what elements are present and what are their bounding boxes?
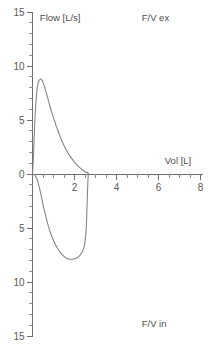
y-tick-label: 15 <box>13 331 25 342</box>
y-tick-label: 10 <box>13 277 25 288</box>
x-axis-tick-labels: 2468 <box>72 182 204 193</box>
x-axis-major-ticks <box>33 174 201 180</box>
expiratory-limb <box>33 79 89 174</box>
y-tick-label: 15 <box>13 7 25 18</box>
y-tick-label: 10 <box>13 61 25 72</box>
curve-series-group <box>33 79 89 259</box>
chart-svg: 15105051015 2468 F/V exF/V inFlow [L/s]V… <box>0 0 213 354</box>
inspiratory-panel-label: F/V in <box>142 318 167 329</box>
y-axis-tick-labels: 15105051015 <box>13 7 25 342</box>
flow-volume-loop-chart: 15105051015 2468 F/V exF/V inFlow [L/s]V… <box>0 0 213 354</box>
y-axis-title: Flow [L/s] <box>40 12 81 23</box>
x-tick-label: 6 <box>156 182 162 193</box>
chart-annotations: F/V exF/V inFlow [L/s]Vol [L] <box>40 12 191 330</box>
y-axis-group: 15105051015 <box>13 7 32 342</box>
y-axis-major-ticks <box>27 12 33 336</box>
expiratory-panel-label: F/V ex <box>142 12 170 23</box>
x-axis-group: 2468 <box>33 174 204 193</box>
inspiratory-limb <box>33 174 89 260</box>
x-tick-label: 2 <box>72 182 78 193</box>
x-tick-label: 4 <box>114 182 120 193</box>
y-tick-label: 5 <box>19 223 25 234</box>
y-tick-label: 5 <box>19 115 25 126</box>
y-tick-label: 0 <box>19 169 25 180</box>
x-axis-title: Vol [L] <box>165 155 191 166</box>
x-tick-label: 8 <box>198 182 204 193</box>
